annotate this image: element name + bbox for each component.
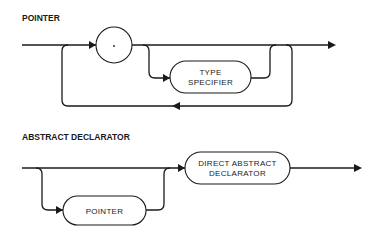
circle-shape bbox=[96, 27, 132, 63]
pill-shape bbox=[185, 152, 290, 184]
arrow-right-icon bbox=[163, 74, 170, 82]
pointer-branch-out bbox=[146, 168, 170, 210]
arrow-right-icon bbox=[89, 41, 96, 49]
arrow-right-icon bbox=[178, 164, 185, 172]
direct-abstract-declarator-label-line2: DECLARATOR bbox=[209, 169, 266, 178]
pointer-title: POINTER bbox=[22, 13, 60, 23]
type-specifier-node: TYPE SPECIFIER bbox=[170, 61, 251, 93]
abstract-declarator-title: ABSTRACT DECLARATOR bbox=[22, 132, 130, 142]
abstract-exit-arrow-icon bbox=[354, 164, 362, 172]
type-specifier-branch-in bbox=[143, 45, 170, 78]
asterisk-dot bbox=[113, 45, 115, 47]
pointer-diagram: POINTER TYPE SPECIFIER bbox=[22, 13, 336, 110]
arrow-left-icon bbox=[172, 102, 180, 110]
pointer-node: POINTER bbox=[63, 196, 146, 225]
pill-shape bbox=[170, 61, 251, 93]
pointer-branch-in bbox=[36, 168, 63, 210]
pointer-node-label: POINTER bbox=[86, 207, 124, 216]
direct-abstract-declarator-label-line1: DIRECT ABSTRACT bbox=[198, 159, 277, 168]
syntax-diagrams: POINTER TYPE SPECIFIER ABSTRACT DECLARAT… bbox=[0, 0, 383, 241]
pointer-exit-arrow-icon bbox=[328, 41, 336, 49]
abstract-declarator-diagram: ABSTRACT DECLARATOR POINTER DIRECT ABSTR… bbox=[22, 132, 362, 225]
type-specifier-label-line1: TYPE bbox=[199, 68, 221, 77]
arrow-right-icon bbox=[56, 206, 63, 214]
direct-abstract-declarator-node: DIRECT ABSTRACT DECLARATOR bbox=[185, 152, 290, 184]
star-node bbox=[96, 27, 132, 63]
type-specifier-label-line2: SPECIFIER bbox=[188, 78, 233, 87]
type-specifier-branch-out bbox=[251, 45, 276, 78]
